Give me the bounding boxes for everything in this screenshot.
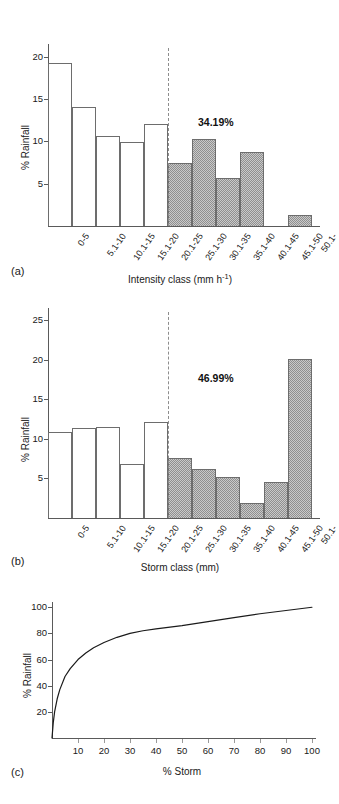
- y-tick-label: 20: [22, 52, 43, 62]
- x-category-label: 10.1-15: [132, 524, 157, 554]
- x-category-label: 35.1-40: [252, 232, 277, 262]
- bar-15.1-20: [120, 142, 144, 226]
- plot-area-b: 5101520250-55.1-1010.1-1515.1-2020.1-252…: [0, 290, 332, 590]
- annotation-percent-b: 46.99%: [198, 372, 234, 384]
- panel-a-intensity-class: (a) 51015200-55.1-1010.1-1515.1-2020.1-2…: [0, 0, 332, 290]
- bar-5.1-10: [72, 428, 96, 518]
- bar-10.1-15: [96, 427, 120, 518]
- curve-path: [52, 607, 312, 738]
- x-category-label: 25.1-30: [204, 524, 229, 554]
- threshold-divider-line: [168, 48, 169, 226]
- bar-10.1-15: [96, 136, 120, 226]
- x-category-label: 40.1-45: [276, 232, 301, 262]
- bar-35.1-40: [216, 477, 240, 518]
- x-category-label: 0-5: [77, 524, 92, 540]
- x-category-label: 35.1-40: [252, 524, 277, 554]
- bar-50.1-: [288, 359, 312, 518]
- x-category-label: 20.1-25: [180, 524, 205, 554]
- panel-b-storm-class: (b) 5101520250-55.1-1010.1-1515.1-2020.1…: [0, 290, 332, 590]
- y-tick-label: 5: [22, 179, 43, 189]
- y-tick-label: 25: [22, 315, 43, 325]
- annotation-percent-a: 34.19%: [198, 116, 234, 128]
- y-axis-title-c: % Rainfall: [22, 653, 33, 698]
- bar-0-5: [48, 63, 72, 226]
- bar-40.1-45: [240, 503, 264, 518]
- x-category-label: 0-5: [77, 232, 92, 248]
- x-axis-title-a: Intensity class (mm h-1): [48, 272, 312, 285]
- x-category-label: 10.1-15: [132, 232, 157, 262]
- bar-25.1-30: [168, 458, 192, 518]
- bar-0-5: [48, 432, 72, 518]
- bar-30.1-35: [192, 139, 216, 226]
- y-axis-title-b: % Rainfall: [20, 417, 31, 462]
- y-tick: [44, 320, 48, 321]
- x-category-label: 5.1-10: [106, 232, 128, 258]
- x-category-label: 30.1-35: [228, 524, 253, 554]
- x-category-label: 5.1-10: [106, 524, 128, 550]
- bar-5.1-10: [72, 107, 96, 226]
- y-tick-label: 20: [22, 355, 43, 365]
- x-category-label: 25.1-30: [204, 232, 229, 262]
- bar-20.1-25: [144, 124, 168, 226]
- x-category-label: 30.1-35: [228, 232, 253, 262]
- y-tick: [44, 360, 48, 361]
- x-category-label: 15.1-20: [156, 232, 181, 262]
- bar-30.1-35: [192, 469, 216, 518]
- bar-50.1-: [288, 215, 312, 226]
- x-category-label: 15.1-20: [156, 524, 181, 554]
- x-axis-title-c: % Storm: [52, 766, 312, 777]
- y-tick: [44, 57, 48, 58]
- plot-area-a: 51015200-55.1-1010.1-1515.1-2020.1-2525.…: [0, 0, 332, 290]
- x-category-label: 40.1-45: [276, 524, 301, 554]
- x-category-label: 20.1-25: [180, 232, 205, 262]
- x-axis-title-b: Storm class (mm): [48, 562, 312, 573]
- bar-40.1-45: [240, 152, 264, 226]
- panel-c-rainfall-vs-storm: (c) 20406080100102030405060708090100 % R…: [0, 590, 332, 804]
- x-axis-line: [48, 226, 320, 227]
- threshold-divider-line: [168, 312, 169, 518]
- bar-15.1-20: [120, 464, 144, 518]
- bar-45.1-50: [264, 482, 288, 518]
- y-tick: [44, 399, 48, 400]
- bar-20.1-25: [144, 422, 168, 518]
- y-tick-label: 15: [22, 94, 43, 104]
- x-axis-line: [48, 518, 320, 519]
- y-axis-title-a: % Rainfall: [20, 125, 31, 170]
- y-tick-label: 15: [22, 394, 43, 404]
- bar-35.1-40: [216, 178, 240, 226]
- y-tick-label: 5: [22, 473, 43, 483]
- bar-25.1-30: [168, 163, 192, 226]
